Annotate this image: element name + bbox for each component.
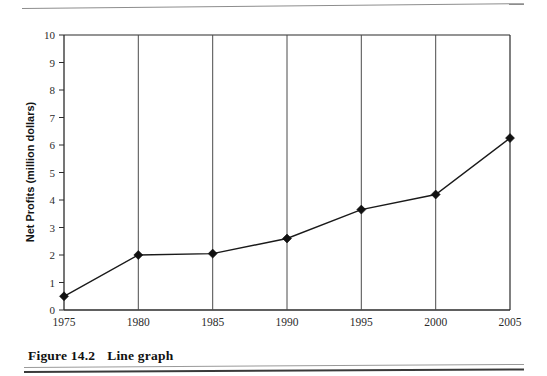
y-tick-label: 4	[50, 194, 56, 206]
y-axis-tick-labels: 0 1 2 3 4 5 6 7 8 9 10	[44, 29, 56, 316]
x-tick-label: 1980	[127, 316, 150, 328]
x-tick-label: 2005	[499, 316, 522, 328]
x-tick-label: 1990	[276, 316, 299, 328]
x-tick-label: 1975	[53, 316, 76, 328]
x-tick-label: 2000	[424, 316, 447, 328]
y-tick-label: 5	[50, 167, 56, 179]
y-tick-label: 10	[44, 29, 56, 41]
y-tick-label: 9	[50, 57, 56, 69]
y-axis-title: Net Profits (million dollars)	[24, 101, 36, 242]
y-tick-label: 3	[50, 222, 56, 234]
x-tick-label: 1985	[201, 316, 224, 328]
figure-caption: Figure 14.2 Line graph	[28, 348, 173, 364]
y-tick-label: 1	[50, 277, 56, 289]
line-chart: 0 1 2 3 4 5 6 7 8 9 10 1975 1980 1985 19…	[0, 0, 547, 376]
y-axis-ticks	[59, 35, 64, 310]
y-tick-label: 7	[50, 112, 56, 124]
figure-caption-number: Figure 14.2	[28, 348, 95, 364]
figure-line-graph: 0 1 2 3 4 5 6 7 8 9 10 1975 1980 1985 19…	[0, 0, 547, 376]
y-tick-label: 8	[50, 84, 56, 96]
figure-caption-text: Line graph	[107, 348, 173, 364]
y-tick-label: 2	[50, 249, 56, 261]
x-tick-label: 1995	[350, 316, 373, 328]
y-tick-label: 0	[50, 304, 56, 316]
x-axis-tick-labels: 1975 1980 1985 1990 1995 2000 2005	[53, 316, 522, 328]
y-tick-label: 6	[50, 139, 56, 151]
